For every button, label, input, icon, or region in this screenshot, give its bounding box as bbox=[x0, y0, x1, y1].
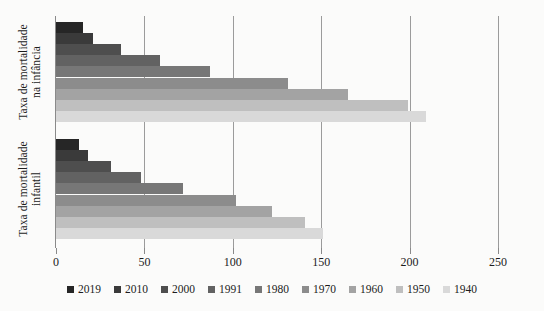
legend-swatch-icon bbox=[255, 286, 262, 293]
legend-item-1991[interactable]: 1991 bbox=[208, 283, 242, 295]
legend-label: 1940 bbox=[454, 283, 477, 295]
bar bbox=[56, 172, 141, 183]
bar-chart: Taxa de mortalidade na infância Taxa de … bbox=[0, 0, 544, 311]
x-tick-200 bbox=[410, 248, 411, 254]
x-tick-label-0: 0 bbox=[36, 255, 76, 270]
legend-item-1950[interactable]: 1950 bbox=[396, 283, 430, 295]
bar bbox=[56, 111, 426, 122]
legend-swatch-icon bbox=[349, 286, 356, 293]
bar bbox=[56, 195, 236, 206]
category-label-mortalidade-na-infancia: Taxa de mortalidade na infância bbox=[17, 17, 45, 127]
x-tick-50 bbox=[144, 248, 145, 254]
legend: 201920102000199119801970196019501940 bbox=[0, 283, 544, 295]
bar bbox=[56, 206, 272, 217]
bar bbox=[56, 33, 93, 44]
category-label-mortalidade-infantil: Taxa de mortalidade infantil bbox=[17, 134, 45, 244]
x-tick-label-200: 200 bbox=[390, 255, 430, 270]
x-tick-label-150: 150 bbox=[301, 255, 341, 270]
x-tick-100 bbox=[233, 248, 234, 254]
bar bbox=[56, 100, 408, 111]
x-axis: 050100150200250 bbox=[56, 248, 498, 274]
bar bbox=[56, 161, 111, 172]
bar bbox=[56, 217, 305, 228]
legend-item-1980[interactable]: 1980 bbox=[255, 283, 289, 295]
bar bbox=[56, 228, 323, 239]
x-tick-250 bbox=[498, 248, 499, 254]
bar bbox=[56, 66, 210, 77]
bar-group-mortalidade-na-infancia bbox=[56, 22, 498, 122]
legend-item-1960[interactable]: 1960 bbox=[349, 283, 383, 295]
bar bbox=[56, 78, 288, 89]
legend-swatch-icon bbox=[443, 286, 450, 293]
x-tick-label-50: 50 bbox=[124, 255, 164, 270]
bar bbox=[56, 44, 121, 55]
gridline-250 bbox=[498, 16, 499, 248]
legend-label: 2000 bbox=[172, 283, 195, 295]
bar bbox=[56, 183, 183, 194]
legend-label: 1950 bbox=[407, 283, 430, 295]
bar bbox=[56, 22, 83, 33]
x-tick-150 bbox=[321, 248, 322, 254]
bar bbox=[56, 55, 160, 66]
plot-area bbox=[56, 16, 498, 248]
legend-swatch-icon bbox=[396, 286, 403, 293]
legend-label: 2019 bbox=[78, 283, 101, 295]
legend-label: 1960 bbox=[360, 283, 383, 295]
bar-group-mortalidade-infantil bbox=[56, 139, 498, 239]
bar bbox=[56, 89, 348, 100]
legend-item-1940[interactable]: 1940 bbox=[443, 283, 477, 295]
bar bbox=[56, 150, 88, 161]
legend-label: 1980 bbox=[266, 283, 289, 295]
bar bbox=[56, 139, 79, 150]
legend-swatch-icon bbox=[67, 286, 74, 293]
legend-item-2010[interactable]: 2010 bbox=[114, 283, 148, 295]
legend-label: 1970 bbox=[313, 283, 336, 295]
legend-item-2019[interactable]: 2019 bbox=[67, 283, 101, 295]
legend-swatch-icon bbox=[208, 286, 215, 293]
x-tick-label-250: 250 bbox=[478, 255, 518, 270]
legend-label: 2010 bbox=[125, 283, 148, 295]
x-tick-label-100: 100 bbox=[213, 255, 253, 270]
legend-item-1970[interactable]: 1970 bbox=[302, 283, 336, 295]
x-tick-0 bbox=[56, 248, 57, 254]
legend-label: 1991 bbox=[219, 283, 242, 295]
legend-swatch-icon bbox=[161, 286, 168, 293]
legend-swatch-icon bbox=[114, 286, 121, 293]
legend-item-2000[interactable]: 2000 bbox=[161, 283, 195, 295]
legend-swatch-icon bbox=[302, 286, 309, 293]
